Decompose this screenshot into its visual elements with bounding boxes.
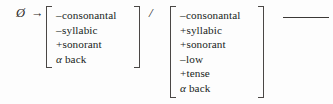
feature-name: back — [189, 82, 211, 94]
feature-row: –syllabic — [56, 23, 140, 38]
feature-row: α back — [180, 81, 264, 96]
rule-expression: Ø → –consonantal –syllabic +sonorant α b… — [0, 0, 333, 104]
left-bracket-icon — [46, 6, 52, 68]
target-feature-list: –consonantal –syllabic +sonorant α back — [56, 6, 140, 67]
feature-name: sonorant — [62, 38, 101, 50]
environment-feature-matrix: –consonantal +syllabic +sonorant –low +t… — [170, 6, 264, 98]
environment-feature-list: –consonantal +syllabic +sonorant –low +t… — [180, 6, 264, 97]
left-bracket-icon — [170, 6, 176, 98]
phonological-rule-figure: Ø → –consonantal –syllabic +sonorant α b… — [0, 0, 333, 104]
feature-row: –low — [180, 52, 264, 67]
feature-row: +sonorant — [56, 37, 140, 52]
feature-row: +syllabic — [180, 23, 264, 38]
feature-name: back — [65, 53, 87, 65]
feature-row: +tense — [180, 66, 264, 81]
target-feature-matrix: –consonantal –syllabic +sonorant α back — [46, 6, 140, 68]
feature-value: α — [56, 52, 62, 67]
environment-separator: / — [149, 6, 153, 20]
feature-name: syllabic — [186, 24, 222, 36]
feature-name: tense — [186, 67, 210, 79]
feature-name: syllabic — [62, 24, 98, 36]
feature-row: α back — [56, 52, 140, 67]
feature-name: low — [186, 53, 203, 65]
null-symbol: Ø — [16, 6, 25, 20]
feature-name: consonantal — [186, 9, 241, 21]
feature-name: sonorant — [186, 38, 225, 50]
rewrite-arrow-icon: → — [31, 6, 44, 20]
feature-row: –consonantal — [56, 8, 140, 23]
feature-name: consonantal — [62, 9, 117, 21]
feature-row: +sonorant — [180, 37, 264, 52]
feature-row: –consonantal — [180, 8, 264, 23]
focus-bar — [283, 17, 329, 18]
feature-value: α — [180, 81, 186, 96]
